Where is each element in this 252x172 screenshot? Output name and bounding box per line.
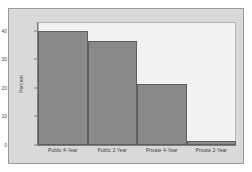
bar-slot [187, 22, 237, 145]
bar-slot [137, 22, 187, 145]
y-tick-mark [34, 145, 37, 146]
x-axis-line [37, 145, 236, 146]
y-tick-label: 20 [1, 85, 9, 90]
y-tick-mark [34, 87, 37, 88]
y-tick-label: 30 [1, 57, 9, 62]
y-tick-label: 0 [4, 143, 9, 148]
x-tick-label: Private 4-Year [137, 148, 187, 154]
chart-figure: 010203040 Public 4-YearPublic 2-YearPriv… [0, 0, 252, 172]
bar [137, 84, 187, 146]
x-tick-label: Public 2-Year [88, 148, 138, 154]
bar [88, 41, 138, 145]
y-tick-label: 10 [1, 114, 9, 119]
bar [187, 141, 237, 145]
bar [38, 31, 88, 145]
bar-slot [88, 22, 138, 145]
x-axis-tick-labels: Public 4-YearPublic 2-YearPrivate 4-Year… [38, 148, 236, 154]
bar-series [38, 22, 236, 145]
y-tick-label: 40 [1, 28, 9, 33]
x-tick-label: Public 4-Year [38, 148, 88, 154]
y-tick-mark [34, 116, 37, 117]
bar-slot [38, 22, 88, 145]
y-tick-mark [34, 59, 37, 60]
y-tick-mark [34, 30, 37, 31]
x-tick-label: Private 2-Year [187, 148, 237, 154]
figure-outer-frame: 010203040 Public 4-YearPublic 2-YearPriv… [8, 8, 244, 164]
y-axis-title: Percent [18, 75, 24, 93]
